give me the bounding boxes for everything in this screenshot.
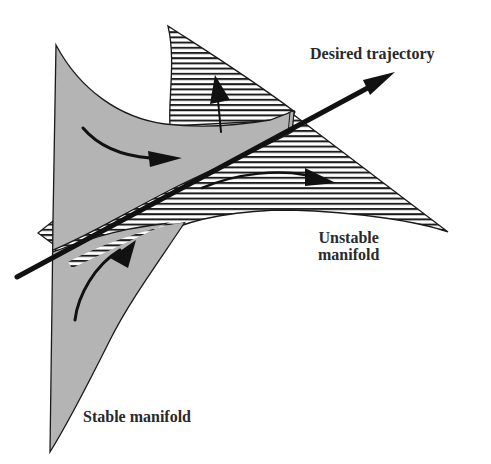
unstable-manifold-label-line1: Unstable: [318, 229, 379, 246]
unstable-manifold-upper-spike: [168, 26, 295, 126]
unstable-manifold-left-wedge: [38, 221, 53, 244]
desired-trajectory-arrowhead: [363, 72, 395, 95]
stable-manifold-label: Stable manifold: [83, 409, 191, 425]
desired-trajectory-label: Desired trajectory: [310, 46, 435, 62]
unstable-manifold-label: Unstable manifold: [318, 229, 379, 263]
unstable-manifold-label-line2: manifold: [318, 246, 379, 263]
manifold-diagram: [0, 0, 491, 464]
